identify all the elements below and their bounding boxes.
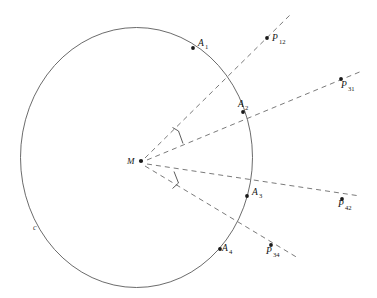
circle-label-c: c [33, 223, 37, 232]
geometry-figure: M c A1A2A3A4P12P31P42P34 [0, 0, 377, 298]
circle-point-A3-label: A [251, 187, 258, 197]
ray-M-A1-P12 [145, 15, 290, 158]
external-point-P12-dot [265, 36, 269, 40]
external-point-P34-label: P [265, 246, 272, 256]
circle-point-A4-subscript: 4 [229, 248, 233, 255]
circle-c [21, 28, 253, 288]
center-point-M-label: M [126, 156, 135, 166]
diagram-canvas: M c A1A2A3A4P12P31P42P34 [0, 0, 377, 298]
circle-point-A4-label: A [221, 243, 228, 253]
circle-point-A2-subscript: 2 [245, 104, 248, 111]
circle-point-A1-label: A [197, 38, 204, 48]
labeled-points-group: A1A2A3A4P12P31P42P34 [191, 33, 354, 258]
circle-point-A2-label: A [237, 99, 244, 109]
circle-point-A3-subscript: 3 [259, 192, 263, 199]
external-point-P42-subscript: 42 [345, 204, 352, 211]
ray-M-A2-P31 [147, 71, 362, 160]
circle-point-A1-subscript: 1 [205, 43, 208, 50]
circle-point-A3-dot [245, 194, 249, 198]
external-point-P42-label: P [337, 199, 344, 209]
circle-point-A1-dot [191, 46, 195, 50]
external-point-P12-label: P [271, 33, 278, 43]
external-point-P31-subscript: 31 [348, 85, 355, 92]
external-point-P12-subscript: 12 [279, 38, 286, 45]
center-point-M-dot [139, 159, 143, 163]
external-point-P34-subscript: 34 [273, 251, 280, 258]
secant-rays-group [145, 15, 362, 258]
external-point-P31-label: P [340, 80, 347, 90]
angle-marks-group [173, 128, 184, 189]
